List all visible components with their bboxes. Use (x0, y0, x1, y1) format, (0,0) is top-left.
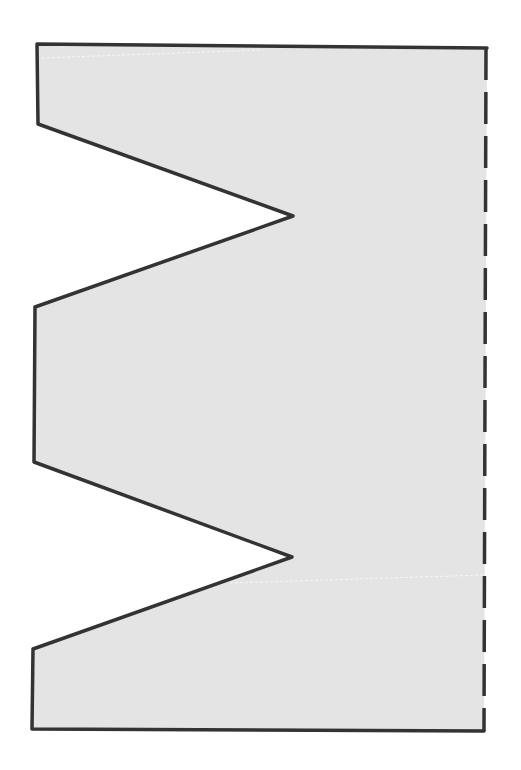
diagram-canvas (0, 0, 521, 770)
notched-shape-diagram (0, 0, 521, 770)
